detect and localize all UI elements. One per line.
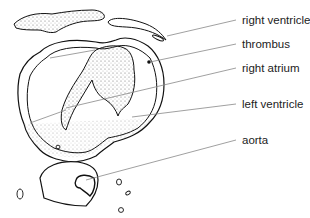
label-right-ventricle: right ventricle bbox=[242, 14, 310, 27]
label-left-ventricle: left ventricle bbox=[242, 98, 303, 111]
tissue-fragment bbox=[14, 10, 104, 33]
label-aorta: aorta bbox=[242, 134, 268, 147]
right-ventricle-wall bbox=[108, 18, 166, 40]
aorta-outline bbox=[40, 162, 98, 206]
label-thrombus: thrombus bbox=[242, 38, 290, 51]
label-right-atrium: right atrium bbox=[242, 62, 300, 75]
